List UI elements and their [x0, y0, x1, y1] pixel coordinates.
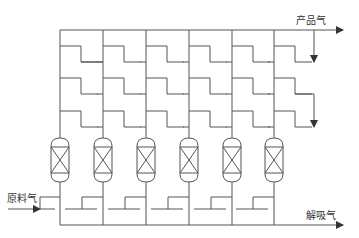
equalization-connector — [274, 46, 312, 62]
equalization-connector — [189, 78, 227, 94]
equalization-connector — [232, 111, 270, 127]
equalization-connector — [232, 46, 270, 62]
psa-process-diagram — [0, 0, 359, 238]
equalization-connector — [103, 46, 141, 62]
equalization-connector — [60, 111, 98, 127]
bottom-connector — [211, 197, 232, 209]
equalization-connector — [60, 46, 98, 62]
adsorption-tower-6 — [265, 138, 283, 182]
product-return-line — [295, 94, 314, 127]
equalization-connector — [60, 78, 98, 94]
equalization-connector — [103, 111, 141, 127]
bottom-connector — [82, 197, 103, 209]
adsorption-tower-3 — [137, 138, 155, 182]
equalization-connector — [274, 111, 312, 127]
adsorption-tower-1 — [51, 138, 69, 182]
bottom-connector — [168, 197, 189, 209]
bottom-connector — [125, 197, 146, 209]
equalization-connector — [103, 78, 141, 94]
adsorption-tower-4 — [180, 138, 198, 182]
equalization-connector — [146, 78, 184, 94]
adsorption-tower-5 — [223, 138, 241, 182]
feed-connector — [40, 197, 60, 209]
equalization-connector — [189, 111, 227, 127]
feed-gas-label: 原料气 — [7, 190, 37, 205]
adsorption-tower-2 — [94, 138, 112, 182]
equalization-connector — [189, 46, 227, 62]
equalization-connector — [146, 46, 184, 62]
equalization-connector — [232, 78, 270, 94]
desorption-gas-label: 解吸气 — [306, 207, 336, 222]
product-gas-label: 产品气 — [296, 12, 326, 27]
bottom-connector — [253, 197, 274, 209]
equalization-connector — [146, 111, 184, 127]
equalization-connector — [274, 78, 312, 94]
